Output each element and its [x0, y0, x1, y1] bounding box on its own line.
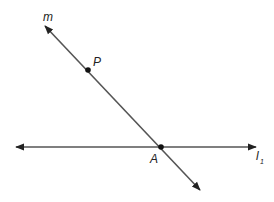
label-l1-subscript: 1: [260, 158, 264, 165]
label-l1: l: [256, 149, 259, 163]
label-p: P: [93, 55, 101, 69]
diagram-canvas: m P A l 1: [0, 0, 274, 202]
point-a: [158, 144, 164, 150]
label-a: A: [149, 152, 158, 166]
geometry-figure: m P A l 1: [0, 0, 274, 202]
line-m: [45, 26, 200, 190]
label-m: m: [43, 10, 53, 24]
point-p: [85, 67, 91, 73]
